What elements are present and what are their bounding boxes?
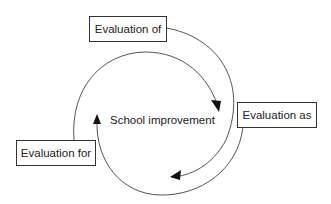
arrowhead-left (93, 114, 101, 124)
node-evaluation-for: Evaluation for (16, 140, 96, 166)
node-evaluation-as: Evaluation as (237, 102, 317, 128)
node-label: Evaluation of (95, 23, 162, 35)
node-label: Evaluation as (242, 109, 311, 121)
node-evaluation-of: Evaluation of (89, 16, 167, 42)
center-label: School improvement (110, 114, 215, 126)
node-label: Evaluation for (21, 147, 91, 159)
arc-top-to-right (74, 52, 217, 140)
arrowhead-bottom (170, 170, 181, 180)
arc-as-to-left (97, 122, 243, 195)
arc-of-to-bottom (166, 28, 234, 177)
arrowhead-right (211, 100, 221, 112)
